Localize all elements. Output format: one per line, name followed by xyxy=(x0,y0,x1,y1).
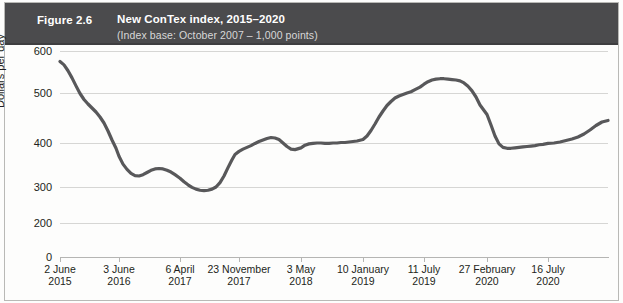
y-tick-label-400: 400 xyxy=(34,137,52,149)
x-tick-label-2: 6 April2017 xyxy=(165,264,194,287)
x-tick-label-date: 3 May xyxy=(287,264,316,276)
x-tick-label-year: 2020 xyxy=(459,276,516,288)
x-tick-label-year: 2019 xyxy=(337,276,389,288)
y-tick-label-0: 0 xyxy=(46,251,52,263)
x-tick-label-7: 27 February2020 xyxy=(459,264,516,287)
x-tick-label-year: 2017 xyxy=(207,276,270,288)
contex-index-line xyxy=(60,62,608,191)
x-tick-label-6: 11 July2019 xyxy=(408,264,441,287)
x-tick-4 xyxy=(301,257,302,262)
x-tick-label-year: 2020 xyxy=(531,276,564,288)
x-tick-1 xyxy=(119,257,120,262)
x-tick-label-date: 16 July xyxy=(531,264,564,276)
y-axis-tick-labels: 6005004003002000 xyxy=(0,45,52,258)
x-tick-label-year: 2019 xyxy=(408,276,441,288)
x-tick-label-date: 23 November xyxy=(207,264,270,276)
x-tick-label-5: 10 January2019 xyxy=(337,264,389,287)
figure-number: Figure 2.6 xyxy=(37,14,92,26)
figure-header-banner: Figure 2.6 New ConTex index, 2015–2020 (… xyxy=(5,3,618,45)
x-tick-label-year: 2016 xyxy=(103,276,135,288)
x-tick-label-8: 16 July2020 xyxy=(531,264,564,287)
y-tick-label-500: 500 xyxy=(34,87,52,99)
x-tick-5 xyxy=(363,257,364,262)
y-tick-label-600: 600 xyxy=(34,45,52,57)
x-tick-0 xyxy=(60,257,61,262)
x-axis-line xyxy=(60,257,609,258)
x-tick-label-0: 2 June2015 xyxy=(44,264,76,287)
x-tick-label-year: 2015 xyxy=(44,276,76,288)
plot-area xyxy=(60,45,608,258)
line-series-svg xyxy=(60,45,608,258)
x-tick-label-3: 23 November2017 xyxy=(207,264,270,287)
figure-container: Figure 2.6 New ConTex index, 2015–2020 (… xyxy=(0,0,623,303)
x-tick-label-date: 27 February xyxy=(459,264,516,276)
x-tick-label-year: 2017 xyxy=(165,276,194,288)
x-tick-label-date: 2 June xyxy=(44,264,76,276)
figure-title: New ConTex index, 2015–2020 xyxy=(117,13,285,25)
x-tick-6 xyxy=(424,257,425,262)
y-tick-label-300: 300 xyxy=(34,181,52,193)
y-tick-label-200: 200 xyxy=(34,217,52,229)
x-tick-label-1: 3 June2016 xyxy=(103,264,135,287)
figure-subtitle: (Index base: October 2007 – 1,000 points… xyxy=(117,29,318,41)
x-tick-label-date: 10 January xyxy=(337,264,389,276)
x-tick-7 xyxy=(487,257,488,262)
x-tick-8 xyxy=(548,257,549,262)
x-tick-label-date: 11 July xyxy=(408,264,441,276)
x-tick-2 xyxy=(180,257,181,262)
x-tick-label-date: 6 April xyxy=(165,264,194,276)
x-tick-3 xyxy=(239,257,240,262)
x-tick-label-year: 2018 xyxy=(287,276,316,288)
x-tick-label-date: 3 June xyxy=(103,264,135,276)
x-tick-label-4: 3 May2018 xyxy=(287,264,316,287)
